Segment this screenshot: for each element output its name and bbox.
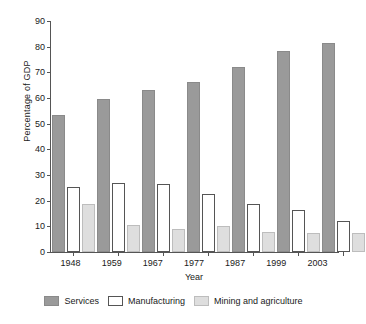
y-axis-tick-label: 70 [1,68,45,77]
x-axis-tick-mark [253,252,254,256]
y-axis-tick-label: 20 [1,197,45,206]
legend-item: Mining and agriculture [194,296,303,306]
x-axis-tick-label: 1987 [215,258,256,268]
x-axis-tick-labels: 1948195919671977198719992003 [50,258,338,268]
bar-manufacturing [292,210,305,252]
bar-group [231,21,276,252]
x-axis-tick-label: 1959 [91,258,132,268]
bar-group [276,21,321,252]
bar-mining [172,229,185,252]
x-axis-tick-mark [73,252,74,256]
bar-services [232,67,245,252]
y-axis-tick-label: 80 [1,43,45,52]
legend-label: Services [64,296,99,306]
x-axis-tick-mark [298,252,299,256]
bar-group [141,21,186,252]
bar-manufacturing [202,194,215,252]
x-axis-tick-label: 2003 [297,258,338,268]
y-axis-tick-label: 60 [1,94,45,103]
bar-services [322,43,335,252]
bar-group [96,21,141,252]
legend-label: Mining and agriculture [214,296,303,306]
bar-mining [352,233,365,252]
bar-services [97,99,110,252]
legend-swatch-icon [44,296,59,306]
bar-group [321,21,366,252]
x-axis-tick-label: 1967 [132,258,173,268]
y-axis-tick-label: 40 [1,145,45,154]
y-axis-tick-label: 50 [1,120,45,129]
bar-services [52,115,65,252]
legend-swatch-icon [108,296,123,306]
bar-mining [217,226,230,252]
y-axis-tick-label: 90 [1,17,45,26]
x-axis-title: Year [50,272,338,282]
x-axis-tick-mark [208,252,209,256]
x-axis-tick-mark [343,252,344,256]
y-axis-tick-label: 30 [1,171,45,180]
y-axis-tick-label: 10 [1,222,45,231]
bar-services [277,51,290,252]
bar-manufacturing [112,183,125,252]
bar-mining [307,233,320,252]
y-axis-tick-mark [47,252,51,253]
bar-group [51,21,96,252]
bar-manufacturing [247,204,260,252]
chart-legend: ServicesManufacturingMining and agricult… [0,296,347,306]
bar-services [142,90,155,252]
x-axis-tick-label: 1977 [173,258,214,268]
x-axis-tick-mark [118,252,119,256]
x-axis-tick-mark [163,252,164,256]
bar-manufacturing [67,187,80,252]
bar-mining [262,232,275,252]
bar-manufacturing [337,221,350,252]
legend-item: Manufacturing [108,296,185,306]
legend-swatch-icon [194,296,209,306]
bar-mining [127,225,140,252]
bar-group [186,21,231,252]
plot-area: 0102030405060708090 [50,21,339,253]
x-axis-tick-label: 1999 [256,258,297,268]
bar-manufacturing [157,184,170,252]
bar-services [187,82,200,252]
bar-groups [51,21,339,252]
legend-label: Manufacturing [128,296,185,306]
y-axis-tick-label: 0 [1,248,45,257]
legend-item: Services [44,296,99,306]
x-axis-tick-label: 1948 [50,258,91,268]
bar-mining [82,204,95,252]
